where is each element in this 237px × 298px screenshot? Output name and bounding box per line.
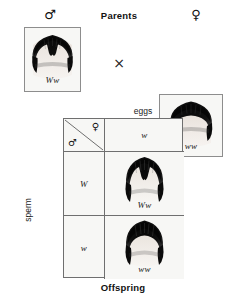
punnett-col-header-0: w bbox=[105, 119, 184, 151]
offspring-genotype-0: Ww bbox=[105, 200, 184, 210]
mother-sex-symbol: ♀ bbox=[185, 8, 207, 21]
father-genotype: Ww bbox=[25, 75, 80, 85]
sperm-allele-0: W bbox=[64, 152, 104, 215]
punnett-grid: ♀ ♂ w W w bbox=[63, 118, 183, 278]
punnett-corner-cell: ♀ ♂ bbox=[64, 119, 104, 151]
punnett-row-header-1: w bbox=[64, 216, 104, 279]
egg-allele-0: w bbox=[105, 119, 184, 151]
corner-male-symbol: ♂ bbox=[68, 138, 77, 148]
sperm-allele-1: w bbox=[64, 216, 104, 279]
eggs-label: eggs bbox=[113, 106, 173, 116]
punnett-square-diagram: Parents ♂ bbox=[0, 0, 237, 298]
punnett-cell-0-0: Ww bbox=[105, 152, 184, 215]
corner-female-symbol: ♀ bbox=[92, 122, 99, 132]
offspring-title: Offspring bbox=[78, 282, 168, 293]
sperm-label: sperm bbox=[23, 188, 33, 232]
parents-title: Parents bbox=[79, 10, 159, 21]
punnett-row-header-0: W bbox=[64, 152, 104, 215]
cross-symbol: × bbox=[106, 56, 132, 70]
father-photo-box: Ww bbox=[24, 27, 81, 92]
father-sex-symbol: ♂ bbox=[39, 8, 61, 21]
punnett-cell-1-0: ww bbox=[105, 216, 184, 279]
offspring-genotype-1: ww bbox=[105, 264, 184, 274]
